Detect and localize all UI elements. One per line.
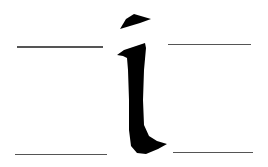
letter-illustration: i [0, 0, 268, 167]
i-dot-icon [120, 14, 151, 29]
letter-i-glyph [0, 0, 268, 167]
i-stem-icon [117, 43, 167, 154]
